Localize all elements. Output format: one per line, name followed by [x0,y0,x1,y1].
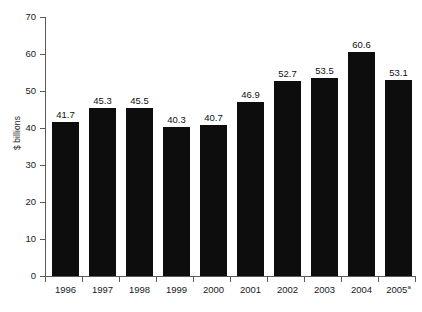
x-axis-tick [119,277,120,282]
y-axis-tick-label: 60 [25,48,36,59]
bar-value-label: 45.5 [117,95,163,106]
bar-value-label: 41.7 [43,109,89,120]
x-axis-tick [341,277,342,282]
bar [311,78,338,276]
bar-value-label: 60.6 [339,39,385,50]
y-axis-tick: 70 [40,17,46,18]
x-axis-tick [45,277,46,282]
x-axis-tick [82,277,83,282]
x-axis-category-label: 2005a [376,284,422,296]
x-axis-tick [378,277,379,282]
bar [200,125,227,276]
y-axis-tick-label: 30 [25,159,36,170]
bar-chart: $ billions 010203040506070 1996199719981… [0,0,422,312]
bar [163,127,190,276]
bar [126,108,153,276]
x-axis-tick [304,277,305,282]
bar-value-label: 46.9 [228,89,274,100]
y-axis-title: $ billions [12,93,22,173]
y-axis-tick: 30 [40,165,46,166]
x-axis-tick [193,277,194,282]
y-axis-tick-label: 40 [25,122,36,133]
footnote-marker: a [407,284,410,290]
bar-value-label: 40.7 [191,112,237,123]
y-axis-tick: 50 [40,91,46,92]
bar [89,108,116,276]
bar [274,81,301,276]
x-axis-tick [156,277,157,282]
y-axis-tick: 20 [40,202,46,203]
bar [385,80,412,276]
x-axis-tick [230,277,231,282]
bar-value-label: 53.1 [376,67,422,78]
bar [348,52,375,276]
y-axis-tick: 40 [40,128,46,129]
bar [52,122,79,276]
y-axis-tick: 60 [40,54,46,55]
x-axis-tick [267,277,268,282]
bar [237,102,264,276]
y-axis-tick-label: 70 [25,11,36,22]
y-axis-tick-label: 0 [31,270,36,281]
y-axis-tick-label: 10 [25,233,36,244]
y-axis-tick-label: 20 [25,196,36,207]
y-axis-tick-label: 50 [25,85,36,96]
x-axis-tick [415,277,416,282]
y-axis-line [45,17,46,277]
bar-value-label: 53.5 [302,65,348,76]
y-axis-tick: 10 [40,239,46,240]
